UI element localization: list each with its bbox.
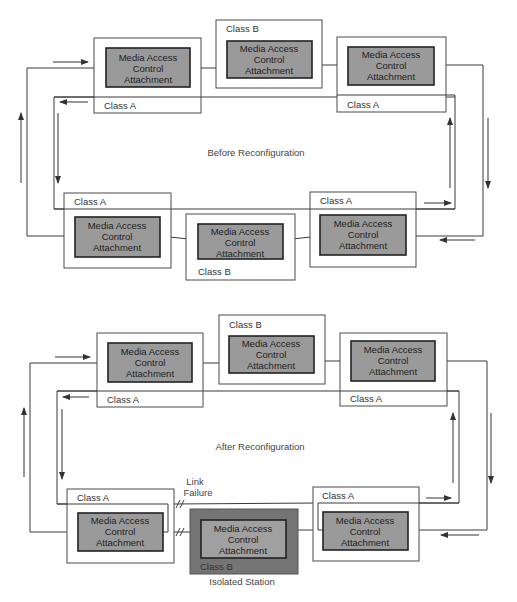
svg-text:Control: Control bbox=[378, 355, 409, 366]
svg-text:Class A: Class A bbox=[74, 196, 107, 207]
svg-text:Attachment: Attachment bbox=[341, 537, 389, 548]
svg-text:Control: Control bbox=[376, 60, 407, 71]
svg-text:Media Access: Media Access bbox=[334, 218, 393, 229]
before-station-a-top-right: Media Access Control Attachment Class A bbox=[337, 37, 455, 112]
svg-text:Media Access: Media Access bbox=[211, 226, 270, 237]
svg-text:Attachment: Attachment bbox=[219, 545, 267, 556]
svg-text:Attachment: Attachment bbox=[216, 248, 264, 259]
svg-text:Control: Control bbox=[225, 237, 256, 248]
svg-text:Media Access: Media Access bbox=[336, 515, 395, 526]
svg-text:Class A: Class A bbox=[347, 99, 380, 110]
svg-text:Media Access: Media Access bbox=[119, 52, 178, 63]
after-failed-link-secondary bbox=[174, 503, 318, 504]
isolated-station-label: Isolated Station bbox=[209, 576, 275, 587]
svg-text:Attachment: Attachment bbox=[339, 240, 387, 251]
after-caption: After Reconfiguration bbox=[215, 441, 304, 452]
after-isolated-station-b: Media Access Control Attachment Class B bbox=[190, 509, 298, 574]
after-station-b-top: Class B Media Access Control Attachment bbox=[219, 315, 325, 384]
svg-text:Attachment: Attachment bbox=[367, 71, 415, 82]
fddi-reconfiguration-diagram: Media Access Control Attachment Class A … bbox=[0, 0, 517, 602]
link-failure-break-icon bbox=[176, 500, 184, 536]
after-diagram: Media Access Control Attachment Class A … bbox=[24, 315, 491, 587]
link-failure-label-line1: Link bbox=[186, 476, 204, 487]
svg-text:Control: Control bbox=[256, 349, 287, 360]
svg-text:Media Access: Media Access bbox=[121, 346, 180, 357]
svg-text:Attachment: Attachment bbox=[247, 360, 295, 371]
svg-text:Class A: Class A bbox=[350, 393, 383, 404]
svg-text:Class A: Class A bbox=[107, 394, 140, 405]
svg-text:Class B: Class B bbox=[226, 23, 259, 34]
svg-text:Media Access: Media Access bbox=[362, 49, 421, 60]
after-station-a-top-left: Media Access Control Attachment Class A bbox=[57, 333, 203, 407]
svg-text:Attachment: Attachment bbox=[245, 65, 293, 76]
svg-text:Media Access: Media Access bbox=[240, 43, 299, 54]
svg-text:Attachment: Attachment bbox=[96, 537, 144, 548]
svg-text:Attachment: Attachment bbox=[126, 368, 174, 379]
before-diagram: Media Access Control Attachment Class A … bbox=[21, 20, 488, 280]
svg-text:Attachment: Attachment bbox=[124, 74, 172, 85]
svg-text:Control: Control bbox=[228, 534, 259, 545]
svg-text:Class B: Class B bbox=[229, 319, 262, 330]
svg-text:Class A: Class A bbox=[320, 195, 353, 206]
before-station-b-top: Class B Media Access Control Attachment bbox=[216, 20, 322, 88]
svg-text:Media Access: Media Access bbox=[91, 515, 150, 526]
svg-text:Media Access: Media Access bbox=[364, 344, 423, 355]
link-failure-label-line2: Failure bbox=[183, 487, 212, 498]
svg-text:Class A: Class A bbox=[104, 100, 137, 111]
after-station-a-bottom-left: Class A Media Access Control Attachment bbox=[57, 489, 174, 563]
svg-text:Media Access: Media Access bbox=[242, 338, 301, 349]
svg-text:Control: Control bbox=[135, 357, 166, 368]
svg-text:Control: Control bbox=[105, 526, 136, 537]
before-station-b-bottom: Media Access Control Attachment Class B bbox=[186, 214, 295, 280]
before-caption: Before Reconfiguration bbox=[207, 147, 304, 158]
before-station-a-bottom-left: Class A Media Access Control Attachment bbox=[54, 193, 171, 268]
svg-text:Attachment: Attachment bbox=[93, 242, 141, 253]
svg-text:Class A: Class A bbox=[322, 490, 355, 501]
after-station-a-top-right: Media Access Control Attachment Class A bbox=[340, 333, 459, 406]
svg-text:Control: Control bbox=[254, 54, 285, 65]
svg-text:Class A: Class A bbox=[77, 492, 110, 503]
svg-text:Control: Control bbox=[133, 63, 164, 74]
svg-text:Control: Control bbox=[350, 526, 381, 537]
svg-text:Class B: Class B bbox=[200, 561, 233, 572]
svg-text:Control: Control bbox=[348, 229, 379, 240]
svg-text:Attachment: Attachment bbox=[369, 366, 417, 377]
svg-text:Control: Control bbox=[102, 231, 133, 242]
svg-text:Media Access: Media Access bbox=[214, 523, 273, 534]
svg-text:Media Access: Media Access bbox=[88, 220, 147, 231]
svg-text:Class B: Class B bbox=[198, 266, 231, 277]
